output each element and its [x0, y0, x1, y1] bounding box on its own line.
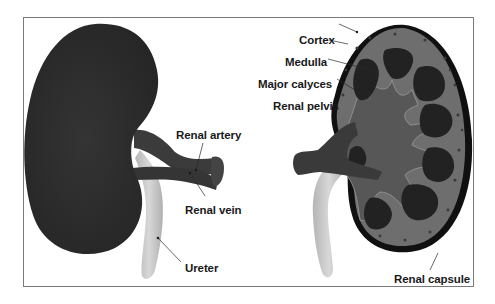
- label-ureter: Ureter: [185, 263, 218, 275]
- label-renal-artery: Renal artery: [176, 130, 241, 142]
- external-kidney: [24, 24, 224, 279]
- label-renal-vein: Renal vein: [185, 205, 242, 217]
- label-renal-capsule: Renal capsule: [394, 274, 470, 286]
- kidney-illustration: [0, 0, 495, 304]
- ureter-shape-right: [313, 166, 345, 277]
- vessel-end: [211, 156, 224, 187]
- label-renal-pelvis: Renal pelvis: [273, 101, 339, 113]
- label-cortex: Cortex: [299, 35, 335, 47]
- label-medulla: Medulla: [285, 57, 327, 69]
- label-major-calyces: Major calyces: [258, 79, 332, 91]
